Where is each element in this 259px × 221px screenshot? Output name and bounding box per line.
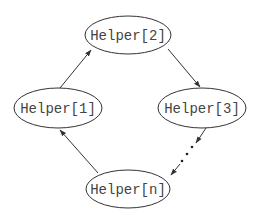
- node-label: Helper[3]: [164, 101, 240, 117]
- ring-diagram: Helper[2] Helper[1] Helper[3] Helper[n]: [0, 0, 259, 221]
- edge-helpern-to-helper1: [60, 130, 98, 173]
- edge-helper1-to-helper2: [60, 50, 91, 88]
- node-helper-n: Helper[n]: [86, 170, 170, 208]
- node-label: Helper[n]: [90, 182, 166, 198]
- ellipsis-dot: [186, 153, 189, 156]
- node-helper-3: Helper[3]: [158, 88, 246, 128]
- node-helper-2: Helper[2]: [85, 16, 171, 54]
- ellipsis-dot: [191, 146, 194, 149]
- node-helper-1: Helper[1]: [14, 88, 102, 128]
- node-label: Helper[1]: [20, 101, 96, 117]
- edge-helper3-to-helpern: [171, 128, 206, 175]
- node-label: Helper[2]: [90, 28, 166, 44]
- edge-helper2-to-helper3: [168, 49, 200, 87]
- ellipsis-dot: [181, 160, 184, 163]
